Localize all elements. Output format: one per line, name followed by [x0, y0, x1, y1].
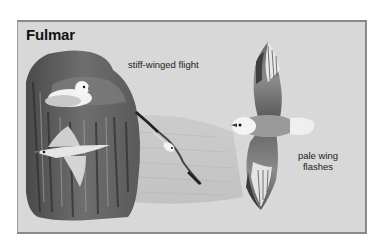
illustration-panel: Fulmar stiff-winged flight pale wing fla…	[17, 20, 367, 234]
annotation-line-1: pale wing	[288, 150, 348, 161]
annotation-pale-wing-flashes: pale wing flashes	[288, 150, 348, 172]
annotation-stiff-winged-flight: stiff-winged flight	[128, 59, 199, 70]
cliff	[26, 50, 140, 220]
sea-background	[128, 115, 243, 203]
fulmar-top-view	[231, 42, 314, 210]
annotation-line-2: flashes	[288, 161, 348, 172]
fulmar-illustration	[18, 22, 365, 232]
title: Fulmar	[26, 26, 75, 43]
